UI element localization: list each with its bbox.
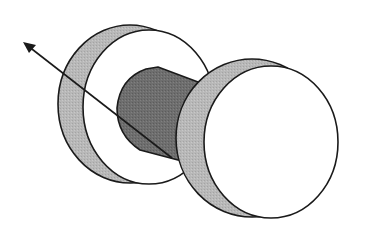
right-disc-face (204, 66, 338, 218)
rotor-diagram (0, 0, 378, 242)
right-disc (176, 59, 338, 218)
